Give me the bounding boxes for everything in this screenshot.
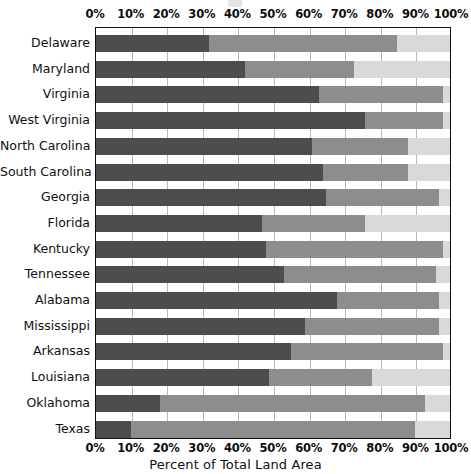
bar-segment-2[interactable] xyxy=(131,421,414,438)
bar-row[interactable] xyxy=(96,421,450,438)
bar-row[interactable] xyxy=(96,318,450,335)
bar-segment-2[interactable] xyxy=(160,395,426,412)
bar-segment-1[interactable] xyxy=(96,421,131,438)
category-label: Tennessee xyxy=(0,265,90,282)
category-label: South Carolina xyxy=(0,163,90,180)
bar-segment-3[interactable] xyxy=(408,164,450,181)
x-tick-label-40: 40% xyxy=(224,441,251,455)
bar-segment-1[interactable] xyxy=(96,369,269,386)
bar-row[interactable] xyxy=(96,112,450,129)
bar-segment-1[interactable] xyxy=(96,215,262,232)
x-axis-title: Percent of Total Land Area xyxy=(0,457,471,472)
x-tick-label-20: 20% xyxy=(153,441,180,455)
bar-segment-1[interactable] xyxy=(96,343,291,360)
bar-segment-3[interactable] xyxy=(443,241,450,258)
x-tick-label-50: 50% xyxy=(260,441,287,455)
category-label: Texas xyxy=(0,420,90,437)
category-label: Arkansas xyxy=(0,342,90,359)
bar-segment-3[interactable] xyxy=(354,61,450,78)
bar-segment-1[interactable] xyxy=(96,35,209,52)
bar-segment-2[interactable] xyxy=(305,318,440,335)
x-tick-label-80: 80% xyxy=(366,7,393,21)
x-tick-label-10: 10% xyxy=(117,441,144,455)
x-tick-label-70: 70% xyxy=(331,7,358,21)
category-label: Maryland xyxy=(0,60,90,77)
bar-row[interactable] xyxy=(96,86,450,103)
category-label: Kentucky xyxy=(0,240,90,257)
bar-segment-2[interactable] xyxy=(326,189,439,206)
bar-segment-1[interactable] xyxy=(96,61,245,78)
bar-segment-3[interactable] xyxy=(443,343,450,360)
bar-segment-2[interactable] xyxy=(291,343,443,360)
bar-row[interactable] xyxy=(96,164,450,181)
bar-segment-2[interactable] xyxy=(284,266,436,283)
bar-row[interactable] xyxy=(96,292,450,309)
plot-area xyxy=(95,27,451,439)
bar-segment-1[interactable] xyxy=(96,138,312,155)
bar-segment-3[interactable] xyxy=(425,395,450,412)
category-label: Florida xyxy=(0,214,90,231)
bar-segment-3[interactable] xyxy=(397,35,450,52)
bar-segment-1[interactable] xyxy=(96,164,323,181)
bar-row[interactable] xyxy=(96,138,450,155)
category-label: Mississippi xyxy=(0,317,90,334)
bar-row[interactable] xyxy=(96,215,450,232)
category-label: West Virginia xyxy=(0,111,90,128)
bar-segment-2[interactable] xyxy=(269,369,372,386)
bar-segment-2[interactable] xyxy=(312,138,408,155)
category-label: Alabama xyxy=(0,291,90,308)
bar-segment-2[interactable] xyxy=(209,35,397,52)
bar-segment-3[interactable] xyxy=(408,138,450,155)
x-axis-top-tick-labels: 0%10%20%30%40%50%60%70%80%90%100% xyxy=(0,7,471,23)
bar-segment-3[interactable] xyxy=(436,266,450,283)
bar-segment-2[interactable] xyxy=(319,86,443,103)
x-tick-label-20: 20% xyxy=(153,7,180,21)
bar-row[interactable] xyxy=(96,395,450,412)
bar-segment-3[interactable] xyxy=(443,86,450,103)
bar-rows xyxy=(96,28,450,438)
x-tick-label-30: 30% xyxy=(188,441,215,455)
bar-row[interactable] xyxy=(96,241,450,258)
category-label: Delaware xyxy=(0,34,90,51)
x-tick-label-60: 60% xyxy=(295,7,322,21)
bar-row[interactable] xyxy=(96,343,450,360)
bar-segment-2[interactable] xyxy=(262,215,365,232)
bar-segment-1[interactable] xyxy=(96,86,319,103)
bar-segment-2[interactable] xyxy=(266,241,443,258)
bar-segment-2[interactable] xyxy=(323,164,408,181)
bar-segment-3[interactable] xyxy=(365,215,450,232)
bar-segment-2[interactable] xyxy=(245,61,355,78)
x-tick-label-80: 80% xyxy=(366,441,393,455)
bar-segment-1[interactable] xyxy=(96,318,305,335)
bar-segment-3[interactable] xyxy=(443,112,450,129)
bar-segment-3[interactable] xyxy=(415,421,450,438)
bar-row[interactable] xyxy=(96,266,450,283)
bar-row[interactable] xyxy=(96,35,450,52)
bar-row[interactable] xyxy=(96,61,450,78)
x-tick-label-90: 90% xyxy=(402,441,429,455)
stacked-bar-chart: 0%10%20%30%40%50%60%70%80%90%100% Delawa… xyxy=(0,0,471,474)
category-label: Virginia xyxy=(0,85,90,102)
bar-segment-3[interactable] xyxy=(439,189,450,206)
bar-segment-3[interactable] xyxy=(439,292,450,309)
bar-segment-3[interactable] xyxy=(439,318,450,335)
x-tick-label-0: 0% xyxy=(85,441,104,455)
bar-row[interactable] xyxy=(96,189,450,206)
x-axis-bottom-tick-labels: 0%10%20%30%40%50%60%70%80%90%100% xyxy=(0,441,471,457)
bar-segment-1[interactable] xyxy=(96,112,365,129)
x-tick-label-0: 0% xyxy=(85,7,104,21)
bar-segment-2[interactable] xyxy=(365,112,443,129)
bar-segment-1[interactable] xyxy=(96,395,160,412)
category-label: Oklahoma xyxy=(0,394,90,411)
bar-segment-1[interactable] xyxy=(96,266,284,283)
bar-segment-2[interactable] xyxy=(337,292,440,309)
x-tick-label-60: 60% xyxy=(295,441,322,455)
category-label: Louisiana xyxy=(0,368,90,385)
bar-row[interactable] xyxy=(96,369,450,386)
x-tick-label-10: 10% xyxy=(117,7,144,21)
bar-segment-1[interactable] xyxy=(96,292,337,309)
bar-segment-1[interactable] xyxy=(96,241,266,258)
category-label: Georgia xyxy=(0,188,90,205)
bar-segment-1[interactable] xyxy=(96,189,326,206)
bar-segment-3[interactable] xyxy=(372,369,450,386)
